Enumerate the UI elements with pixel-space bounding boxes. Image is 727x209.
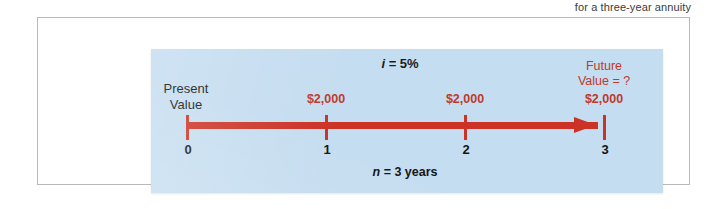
timeline-tick-label-0: 0 <box>168 142 208 157</box>
interest-rate-label: i = 5% <box>350 56 450 71</box>
periods-label: n = 3 years <box>345 165 465 179</box>
future-value-line-2: Value = ? <box>560 74 648 89</box>
interest-rate-symbol: i <box>381 56 385 71</box>
timeline-tick-label-3: 3 <box>585 142 625 157</box>
present-value-label: Present Value <box>146 81 226 113</box>
timeline-axis-line <box>186 122 598 129</box>
cash-flow-amount-period-2: $2,000 <box>420 92 510 106</box>
timeline-tick-3 <box>603 115 606 140</box>
timeline-tick-label-2: 2 <box>446 142 486 157</box>
timeline-tick-label-1: 1 <box>307 142 347 157</box>
future-value-line-1: Future <box>560 59 648 74</box>
periods-value: = 3 years <box>384 165 438 179</box>
future-value-label: Future Value = ? <box>560 59 648 89</box>
cash-flow-amount-period-3: $2,000 <box>559 92 649 106</box>
figure-frame: i = 5% Present Value Future Value = ? $2… <box>37 17 690 185</box>
present-value-line-2: Value <box>146 97 226 113</box>
cash-flow-amount-period-1: $2,000 <box>281 92 371 106</box>
timeline-panel: i = 5% Present Value Future Value = ? $2… <box>151 49 663 193</box>
periods-symbol: n <box>373 165 381 179</box>
timeline-tick-2 <box>464 115 467 140</box>
interest-rate-value: = 5% <box>389 56 419 71</box>
timeline-arrowhead-icon <box>574 117 596 133</box>
present-value-line-1: Present <box>146 81 226 97</box>
timeline-tick-0 <box>186 115 189 140</box>
timeline-tick-1 <box>325 115 328 140</box>
figure-caption: for a three-year annuity <box>360 0 691 14</box>
